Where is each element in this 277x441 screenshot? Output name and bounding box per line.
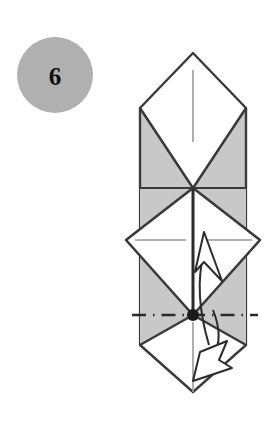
origami-figure: 6 [0,0,277,441]
pivot-dot [187,309,199,321]
step-number-label: 6 [49,63,62,90]
step-number-badge: 6 [17,37,93,113]
